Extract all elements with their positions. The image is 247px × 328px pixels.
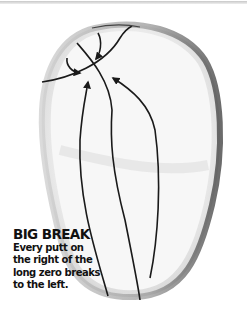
caption-title: BIG BREAK <box>13 227 123 241</box>
caption: BIG BREAK Every putt on the right of the… <box>13 227 123 291</box>
caption-body: Every putt on the right of the long zero… <box>13 242 103 291</box>
